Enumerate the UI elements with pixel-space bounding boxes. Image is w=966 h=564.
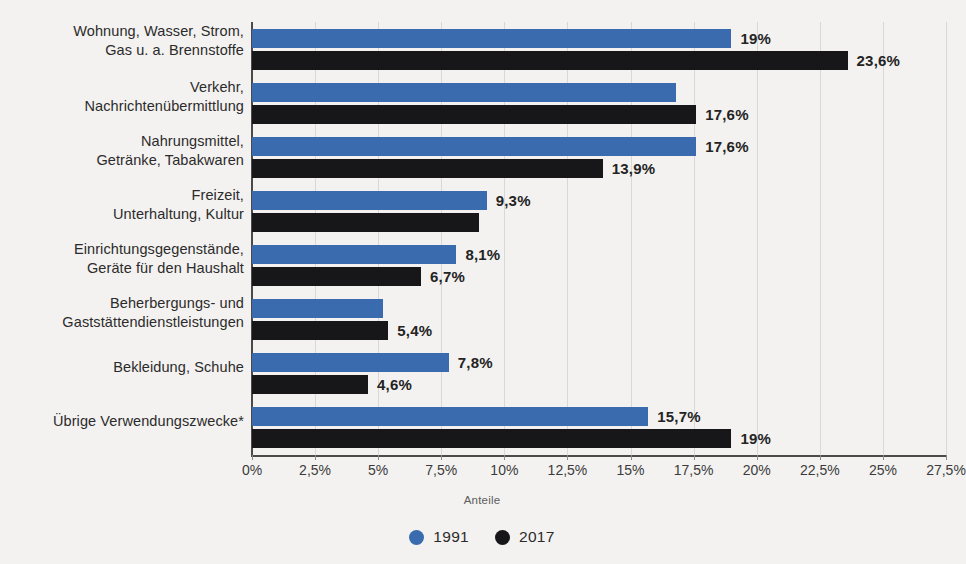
x-axis-tick-label: 7,5% [425, 462, 457, 478]
category-label-line: Gaststättendienstleistungen [0, 313, 244, 332]
bar-group: 5,4% [252, 293, 946, 347]
bar-2017 [252, 213, 479, 232]
x-axis-tick [567, 455, 568, 460]
category-label: Nahrungsmittel, Getränke, Tabakwaren [0, 132, 244, 169]
legend-item-1991: 1991 [409, 528, 469, 546]
bar-1991 [252, 29, 731, 48]
category-label-line: Übrige Verwendungszwecke* [0, 412, 244, 431]
bar-value-label: 5,4% [397, 321, 432, 340]
bar-2017 [252, 159, 603, 178]
bar-1991 [252, 191, 487, 210]
category-label-line: Bekleidung, Schuhe [0, 358, 244, 377]
bar-value-label: 7,8% [458, 353, 493, 372]
x-axis-tick-label: 15% [617, 462, 645, 478]
chart-legend: 1991 2017 [0, 528, 964, 546]
bar-value-label: 13,9% [612, 159, 656, 178]
category-label-line: Freizeit, [0, 186, 244, 205]
bar-value-label: 15,7% [657, 407, 701, 426]
bar-group: 15,7%19% [252, 401, 946, 455]
category-label-line: Einrichtungsgegenstände, [0, 240, 244, 259]
bar-value-label: 9,3% [496, 191, 531, 210]
bar-value-label: 19% [740, 429, 771, 448]
bar-group: 7,8%4,6% [252, 347, 946, 401]
category-axis-labels: Wohnung, Wasser, Strom, Gas u. a. Brenns… [0, 22, 244, 455]
category-label: Wohnung, Wasser, Strom, Gas u. a. Brenns… [0, 22, 244, 59]
category-label: Einrichtungsgegenstände, Geräte für den … [0, 240, 244, 277]
bar-1991 [252, 137, 696, 156]
bar-2017 [252, 51, 848, 70]
bar-1991 [252, 299, 383, 318]
bar-2017 [252, 267, 421, 286]
bar-value-label: 8,1% [465, 245, 500, 264]
x-axis-tick-label: 10% [490, 462, 518, 478]
category-label-line: Gas u. a. Brennstoffe [0, 41, 244, 60]
category-label-line: Verkehr, [0, 78, 244, 97]
x-axis-tick [315, 455, 316, 460]
bar-group: 17,6%13,9% [252, 130, 946, 184]
x-axis-tick [820, 455, 821, 460]
x-axis-tick-label: 25% [869, 462, 897, 478]
x-axis-tick [378, 455, 379, 460]
bar-value-label: 17,6% [705, 137, 749, 156]
bar-1991 [252, 407, 648, 426]
bar-value-label: 6,7% [430, 267, 465, 286]
category-label-line: Geräte für den Haushalt [0, 259, 244, 278]
category-label-line: Getränke, Tabakwaren [0, 151, 244, 170]
bar-1991 [252, 245, 456, 264]
bar-1991 [252, 353, 449, 372]
x-axis-line [251, 455, 947, 457]
x-axis-tick [504, 455, 505, 460]
x-axis-tick [441, 455, 442, 460]
bar-2017 [252, 105, 696, 124]
x-axis-tick-label: 0% [242, 462, 262, 478]
bar-value-label: 23,6% [857, 51, 901, 70]
category-label-line: Wohnung, Wasser, Strom, [0, 22, 244, 41]
bar-value-label: 17,6% [705, 105, 749, 124]
bar-2017 [252, 375, 368, 394]
x-axis-title: Anteile [0, 494, 964, 506]
x-axis-tick [252, 455, 253, 460]
legend-swatch-circle-icon [409, 530, 424, 545]
category-label: Übrige Verwendungszwecke* [0, 412, 244, 431]
x-axis-tick-label: 17,5% [674, 462, 714, 478]
bar-group: 9,3% [252, 184, 946, 238]
category-label-line: Unterhaltung, Kultur [0, 205, 244, 224]
legend-item-2017: 2017 [495, 528, 555, 546]
category-label: Freizeit, Unterhaltung, Kultur [0, 186, 244, 223]
category-label: Verkehr, Nachrichtenübermittlung [0, 78, 244, 115]
category-label: Beherbergungs- und Gaststättendienstleis… [0, 294, 244, 331]
legend-label: 2017 [519, 528, 555, 546]
x-axis-tick [883, 455, 884, 460]
x-axis-tick [757, 455, 758, 460]
x-axis-tick-label: 20% [743, 462, 771, 478]
x-axis-tick-label: 12,5% [548, 462, 588, 478]
x-axis-tick [694, 455, 695, 460]
bar-2017 [252, 321, 388, 340]
category-label-line: Nahrungsmittel, [0, 132, 244, 151]
bar-group: 17,6% [252, 76, 946, 130]
x-axis-tick-label: 2,5% [299, 462, 331, 478]
plot-area: 19%23,6%17,6%17,6%13,9%9,3%8,1%6,7%5,4%7… [252, 22, 946, 455]
bar-group: 8,1%6,7% [252, 239, 946, 293]
bar-1991 [252, 83, 676, 102]
legend-label: 1991 [433, 528, 469, 546]
bar-value-label: 19% [740, 29, 771, 48]
category-label: Bekleidung, Schuhe [0, 358, 244, 377]
x-axis-tick-labels: 0%2,5%5%7,5%10%12,5%15%17,5%20%22,5%25%2… [252, 462, 952, 484]
gridline [946, 22, 947, 455]
bar-group: 19%23,6% [252, 22, 946, 76]
x-axis-tick-label: 22,5% [800, 462, 840, 478]
x-axis-tick [946, 455, 947, 460]
legend-swatch-circle-icon [495, 530, 510, 545]
x-axis-tick [631, 455, 632, 460]
bar-2017 [252, 429, 731, 448]
category-label-line: Beherbergungs- und [0, 294, 244, 313]
category-label-line: Nachrichtenübermittlung [0, 97, 244, 116]
x-axis-tick-label: 27,5% [926, 462, 966, 478]
bar-value-label: 4,6% [377, 375, 412, 394]
x-axis-tick-label: 5% [368, 462, 388, 478]
